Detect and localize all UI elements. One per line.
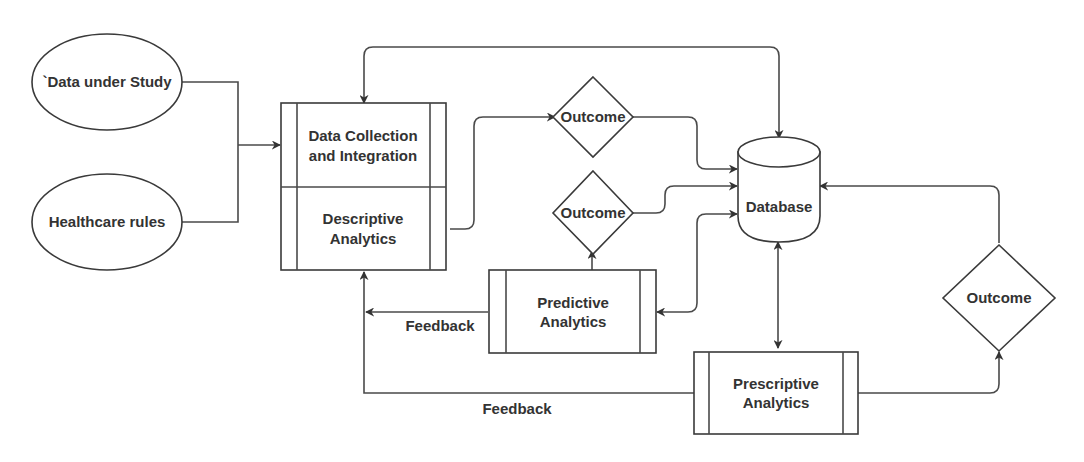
descriptive-label-line1: Descriptive [323,210,404,227]
process-predictive-analytics: Predictive Analytics [489,270,656,353]
feedback-prescriptive-label: Feedback [482,400,552,417]
prescriptive-label-line2: Analytics [743,394,810,411]
decision-outcome-middle: Outcome [553,171,633,254]
datastore-database: Database [738,137,820,242]
feedback-predictive-label: Feedback [405,317,475,334]
outcome-middle-label: Outcome [560,204,625,221]
data-collection-label-line2: and Integration [309,147,417,164]
edge-prescriptive-to-outcome-right [858,352,999,393]
edge-outcome-right-to-database [820,186,999,243]
edge-healthcare-rules [182,145,238,222]
process-data-collection-descriptive: Data Collection and Integration Descript… [281,103,446,270]
edge-outcome-top-to-database [633,117,737,169]
edge-predictive-database [657,214,737,312]
prescriptive-label-line1: Prescriptive [733,375,819,392]
edge-descriptive-to-outcome-top [450,117,555,229]
input-healthcare-rules: Healthcare rules [32,174,182,270]
decision-outcome-top: Outcome [553,77,633,157]
analytics-flow-diagram: `Data under Study Healthcare rules Data … [0,0,1084,462]
decision-outcome-right: Outcome [943,245,1055,351]
predictive-label-line1: Predictive [537,294,609,311]
edge-data-under-study [182,82,238,145]
predictive-label-line2: Analytics [540,313,607,330]
input-data-under-study-label: `Data under Study [42,73,172,90]
process-prescriptive-analytics: Prescriptive Analytics [694,352,858,434]
database-label: Database [746,198,813,215]
descriptive-label-line2: Analytics [330,230,397,247]
edge-outcome-middle-to-database [633,186,737,213]
data-collection-label-line1: Data Collection [308,127,417,144]
outcome-right-label: Outcome [966,289,1031,306]
outcome-top-label: Outcome [560,108,625,125]
input-data-under-study: `Data under Study [32,34,182,130]
input-healthcare-rules-label: Healthcare rules [49,213,166,230]
